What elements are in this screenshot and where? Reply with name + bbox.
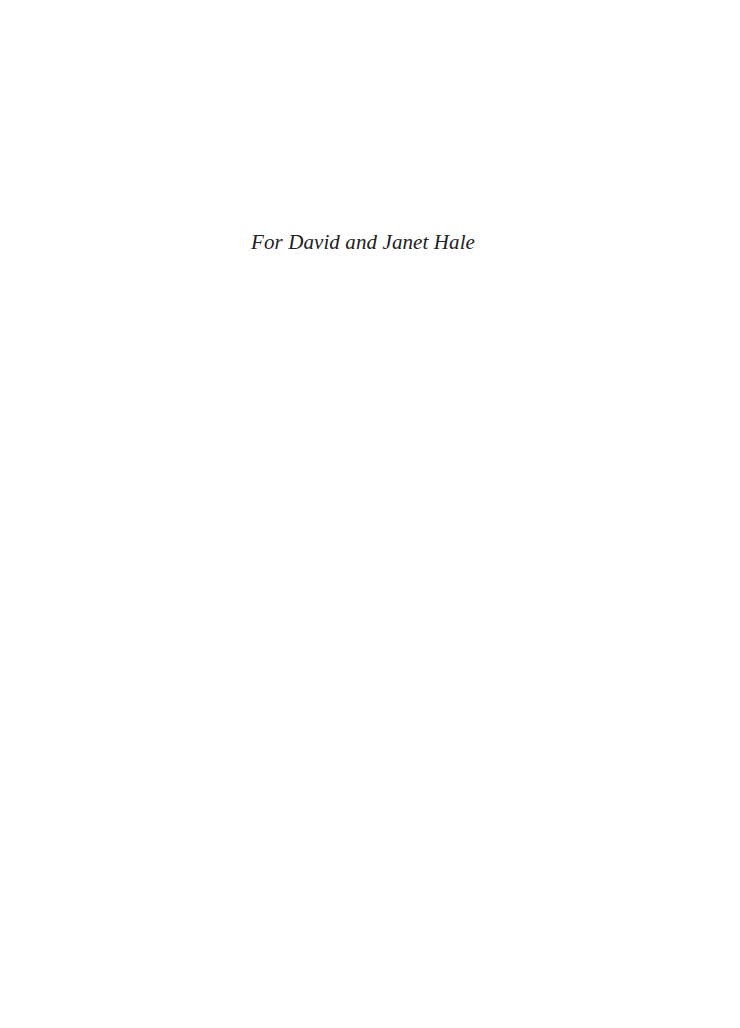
dedication-text: For David and Janet Hale xyxy=(0,229,726,255)
book-page: For David and Janet Hale xyxy=(0,0,740,1028)
